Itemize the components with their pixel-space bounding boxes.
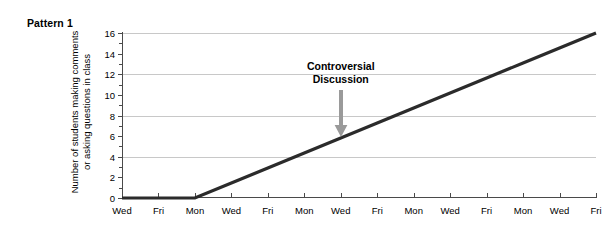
annotation-arrow bbox=[334, 90, 348, 142]
plot-area: 0246810121416 WedFriMonWedFriMonWedFriMo… bbox=[122, 33, 596, 198]
x-axis-tick-label: Mon bbox=[186, 205, 204, 216]
y-axis-tick bbox=[118, 198, 123, 199]
x-axis-tick-label: Fri bbox=[590, 205, 601, 216]
y-axis-tick-label: 14 bbox=[104, 48, 115, 59]
y-axis-tick-label: 12 bbox=[104, 69, 115, 80]
y-axis-title-line-2: or asking questions in class bbox=[81, 31, 94, 194]
data-series-line bbox=[122, 33, 596, 198]
y-axis-tick-label: 8 bbox=[110, 110, 115, 121]
x-axis-tick-label: Mon bbox=[295, 205, 313, 216]
page-title: Pattern 1 bbox=[27, 17, 73, 29]
down-arrow-icon bbox=[334, 90, 348, 138]
x-axis-tick-label: Mon bbox=[514, 205, 532, 216]
x-axis-tick-label: Wed bbox=[550, 205, 569, 216]
y-axis-tick-label: 4 bbox=[110, 151, 115, 162]
y-axis-tick-label: 0 bbox=[110, 193, 115, 204]
annotation-line-2: Discussion bbox=[307, 73, 375, 86]
y-axis-tick-label: 16 bbox=[104, 28, 115, 39]
chart-figure: Pattern 1 Number of students making comm… bbox=[0, 0, 602, 228]
x-axis-tick-label: Wed bbox=[440, 205, 459, 216]
y-axis-title-line-1: Number of students making comments bbox=[69, 31, 82, 194]
x-axis-tick-label: Mon bbox=[404, 205, 422, 216]
x-axis-tick-label: Wed bbox=[331, 205, 350, 216]
annotation-line-1: Controversial bbox=[307, 60, 375, 73]
x-axis-tick-label: Wed bbox=[222, 205, 241, 216]
x-axis-tick-label: Fri bbox=[372, 205, 383, 216]
y-axis-tick-label: 2 bbox=[110, 172, 115, 183]
y-axis-tick-label: 10 bbox=[104, 89, 115, 100]
x-axis-tick-label: Fri bbox=[153, 205, 164, 216]
y-axis-tick-label: 6 bbox=[110, 131, 115, 142]
annotation-label: Controversial Discussion bbox=[307, 60, 375, 86]
x-axis-tick-label: Wed bbox=[112, 205, 131, 216]
x-axis-tick bbox=[596, 193, 597, 198]
x-axis-tick-label: Fri bbox=[262, 205, 273, 216]
x-axis-tick-label: Fri bbox=[481, 205, 492, 216]
